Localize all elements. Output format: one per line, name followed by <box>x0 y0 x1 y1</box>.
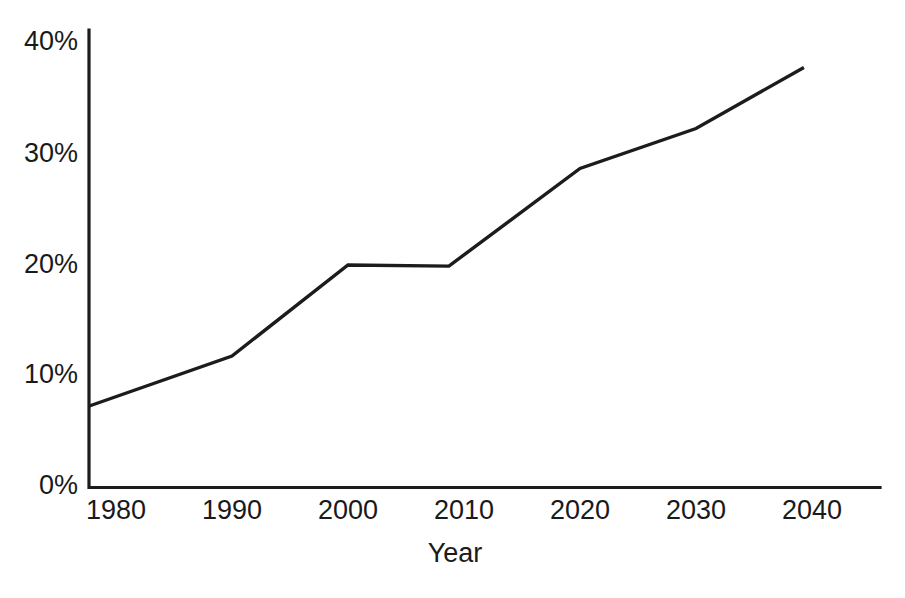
x-tick-label-1990: 1990 <box>202 495 262 525</box>
x-tick-label-2030: 2030 <box>666 495 726 525</box>
x-tick-label-2040: 2040 <box>782 495 842 525</box>
x-tick-label-2010: 2010 <box>434 495 494 525</box>
x-tick-label-1980: 1980 <box>86 495 146 525</box>
y-tick-label-40: 40% <box>24 26 78 56</box>
y-tick-label-0: 0% <box>39 470 78 500</box>
chart-canvas: 40% 30% 20% 10% 0% 1980 1990 2000 2010 2… <box>0 0 905 598</box>
x-tick-label-2000: 2000 <box>318 495 378 525</box>
line-chart: 40% 30% 20% 10% 0% 1980 1990 2000 2010 2… <box>0 0 905 598</box>
x-axis-title: Year <box>428 538 483 568</box>
y-tick-label-20: 20% <box>24 249 78 279</box>
x-tick-label-2020: 2020 <box>550 495 610 525</box>
y-tick-label-30: 30% <box>24 138 78 168</box>
y-tick-label-10: 10% <box>24 359 78 389</box>
